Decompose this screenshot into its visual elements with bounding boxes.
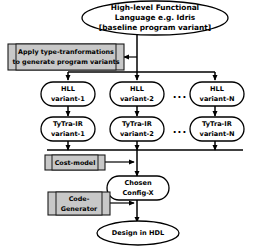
hll-variant-2-line-1: HLL xyxy=(130,85,145,93)
transform-box-line-2: to generate program variants xyxy=(12,58,119,66)
node-code-generator: Code- Generator xyxy=(48,192,110,215)
node-chosen-config: Chosen Config-X xyxy=(107,176,169,200)
node-hll-source: High-level Functional Language e.g. Idri… xyxy=(82,1,228,35)
chosen-config-line-1: Chosen xyxy=(124,179,151,187)
node-ir-variant-1: TyTra-IR variant-1 xyxy=(41,117,95,141)
hll-variant-1-line-2: variant-1 xyxy=(51,95,85,103)
node-ir-variant-n: TyTra-IR variant-N xyxy=(190,117,244,141)
ir-variant-n-line-1: TyTra-IR xyxy=(202,120,232,128)
hll-source-line-2: Language e.g. Idris xyxy=(115,13,196,22)
code-generator-line-1: Code- xyxy=(69,195,90,203)
node-cost-model: Cost-model xyxy=(45,155,105,170)
node-ir-variant-2: TyTra-IR variant-2 xyxy=(110,117,164,141)
ir-variant-n-line-2: variant-N xyxy=(200,130,235,138)
cost-model-label: Cost-model xyxy=(55,159,96,167)
hll-row-ellipsis: ... xyxy=(173,89,187,100)
hll-variant-n-line-1: HLL xyxy=(210,85,225,93)
node-design-in-hdl: Design in HDL xyxy=(97,221,179,245)
code-generator-line-2: Generator xyxy=(61,205,98,213)
transform-box-line-1: Apply type-tranformations xyxy=(18,48,114,56)
ir-variant-2-line-2: variant-2 xyxy=(120,130,154,138)
design-in-hdl-label: Design in HDL xyxy=(112,229,165,237)
tytra-flow-diagram: High-level Functional Language e.g. Idri… xyxy=(0,0,254,251)
hll-variant-n-line-2: variant-N xyxy=(200,95,235,103)
node-apply-type-transformations: Apply type-tranformations to generate pr… xyxy=(8,44,124,70)
flowchart-canvas: High-level Functional Language e.g. Idri… xyxy=(0,0,254,251)
node-hll-variant-1: HLL variant-1 xyxy=(41,82,95,106)
node-hll-variant-n: HLL variant-N xyxy=(190,82,244,106)
chosen-config-line-2: Config-X xyxy=(123,189,154,197)
ir-variant-1-line-2: variant-1 xyxy=(51,130,85,138)
hll-variant-2-line-2: variant-2 xyxy=(120,95,154,103)
hll-source-line-1: High-level Functional xyxy=(111,3,199,12)
ir-variant-2-line-1: TyTra-IR xyxy=(122,120,152,128)
ir-row-ellipsis: ... xyxy=(173,124,187,135)
node-hll-variant-2: HLL variant-2 xyxy=(110,82,164,106)
hll-variant-1-line-1: HLL xyxy=(61,85,76,93)
hll-source-line-3: [baseline program variant] xyxy=(99,23,211,32)
ir-variant-1-line-1: TyTra-IR xyxy=(53,120,83,128)
